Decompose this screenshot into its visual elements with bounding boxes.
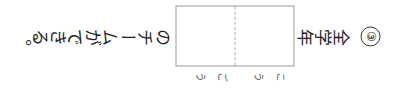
answer-box[interactable] (175, 5, 294, 66)
sentence-continuation: のチームができる。 (14, 27, 172, 44)
furigana-cell-2: ごう (183, 68, 227, 83)
question-label: 全学年 (295, 27, 349, 44)
vertical-question-column: ③ 全学年 こう ごう のチームができる。 (0, 0, 397, 92)
question-number: ③ (360, 26, 380, 46)
furigana-cell-1: こう (241, 68, 285, 83)
cell-divider (234, 6, 235, 65)
